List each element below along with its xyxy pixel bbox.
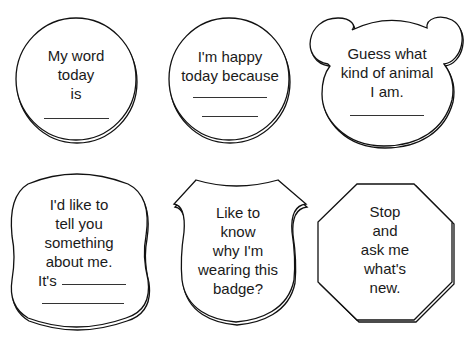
badge-text-line: I'm happy (180, 47, 280, 66)
badge-text-line: Like to (196, 203, 280, 222)
badge-text-line: Guess what (340, 44, 434, 63)
write-in-blank[interactable] (202, 116, 258, 117)
badge-text-line: is (36, 84, 116, 103)
badge-text-line: I'd like to (36, 195, 122, 214)
badge-text-line: today because (180, 66, 280, 85)
write-in-blank[interactable] (42, 303, 124, 304)
write-in-blank[interactable] (62, 284, 126, 285)
write-in-blank[interactable] (44, 118, 109, 119)
badge-text-line: My word (36, 46, 116, 65)
badge-text-line: new. (345, 278, 425, 297)
badge-prefix-text: It's (38, 271, 57, 290)
badge-text-line: tell you (36, 214, 122, 233)
badge-text-line: ask me (345, 240, 425, 259)
badge-text-line: I am. (340, 82, 434, 101)
badge-text-line: today (36, 65, 116, 84)
badge-text-line: know (196, 222, 280, 241)
badge-text-line: why I'm (196, 241, 280, 260)
write-in-blank[interactable] (193, 97, 267, 98)
badge-text-line: kind of animal (340, 63, 434, 82)
write-in-blank[interactable] (350, 115, 424, 116)
badge-text-line: Stop (345, 202, 425, 221)
badge-text-line: and (345, 221, 425, 240)
badge-text-line: what's (345, 259, 425, 278)
badge-text-line: wearing this (196, 260, 280, 279)
badge-text-line: about me. (36, 252, 122, 271)
badge-text-line: something (36, 233, 122, 252)
badge-text-line: badge? (196, 279, 280, 298)
